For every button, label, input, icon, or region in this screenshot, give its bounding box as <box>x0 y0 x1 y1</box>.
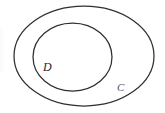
inner-set-circle <box>33 23 112 91</box>
venn-diagram-canvas <box>0 0 165 113</box>
venn-diagram: D C <box>0 0 165 113</box>
scan-artifact <box>0 28 3 72</box>
inner-set-label: D <box>43 61 52 73</box>
outer-set-ellipse <box>14 6 154 106</box>
outer-set-label: C <box>117 82 124 93</box>
